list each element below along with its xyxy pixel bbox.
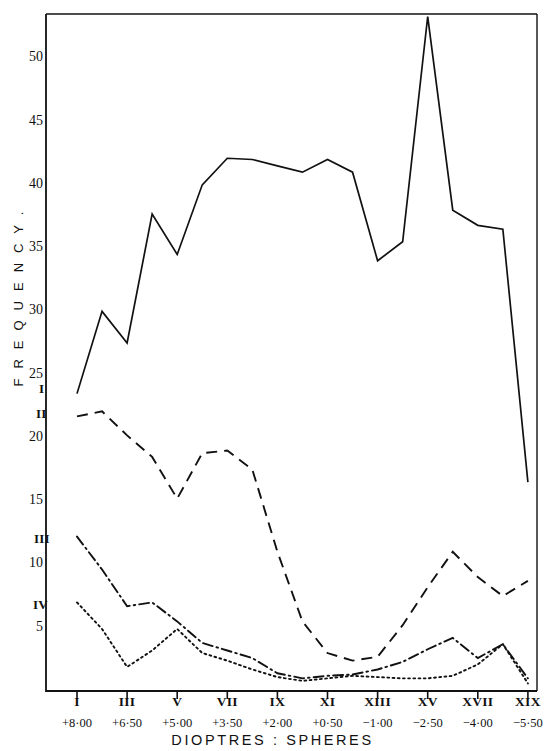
- x-tick-label: VII: [202, 694, 252, 710]
- chart-figure: F R E Q U E N C Y . 5101520253035404550 …: [0, 0, 545, 751]
- x-dioptre-label: −5·50: [498, 716, 545, 731]
- x-tick-label: XV: [403, 694, 453, 710]
- x-axis-title: DIOPTRES : SPHERES: [0, 732, 545, 748]
- series-line-II: [77, 411, 528, 660]
- x-tick-label: V: [152, 694, 202, 710]
- plot-frame: [46, 14, 537, 691]
- series-label-II: II: [36, 406, 47, 422]
- x-axis-roman-labels: IIIIVVIIIXXIXIIIXVXVIIXIX: [0, 694, 545, 718]
- plot-area: [0, 0, 545, 751]
- x-tick-label: I: [52, 694, 102, 710]
- series-label-I: I: [39, 381, 44, 397]
- series-label-III: III: [34, 531, 50, 547]
- x-tick-label: XI: [303, 694, 353, 710]
- x-tick-label: IX: [252, 694, 302, 710]
- series-line-III: [77, 537, 528, 679]
- x-tick-label: III: [102, 694, 152, 710]
- x-tick-label: XVII: [453, 694, 503, 710]
- x-tick-label: XIX: [503, 694, 545, 710]
- series-layer: [77, 17, 528, 684]
- x-tick-label: XIII: [353, 694, 403, 710]
- series-label-IV: IV: [33, 597, 48, 613]
- series-line-I: [77, 17, 528, 483]
- series-line-IV: [77, 602, 528, 683]
